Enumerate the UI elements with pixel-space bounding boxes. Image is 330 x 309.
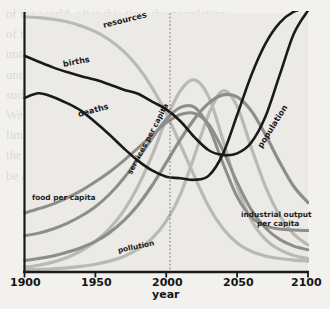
limits-to-growth-chart bbox=[0, 0, 330, 309]
curve-label-food-per-capita: food per capita bbox=[32, 194, 95, 202]
x-tick-label-1950: 1950 bbox=[81, 276, 112, 289]
x-axis-title: year bbox=[152, 288, 179, 301]
x-tick-label-2100: 2100 bbox=[291, 276, 322, 289]
curve-label-industrial-output-line2: per capita bbox=[257, 220, 299, 228]
curve-label-industrial-output-line1: industrial output bbox=[241, 211, 312, 219]
x-tick-label-2050: 2050 bbox=[223, 276, 254, 289]
x-tick-label-1900: 1900 bbox=[10, 276, 41, 289]
